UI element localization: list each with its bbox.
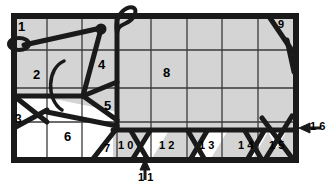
label-ref-2: 2 bbox=[33, 68, 40, 81]
label-ref-9: 9 bbox=[278, 19, 284, 30]
label-ref-10: 1 0 bbox=[118, 140, 133, 151]
label-ref-7: 7 bbox=[104, 143, 110, 154]
label-ref-14: 1 4 bbox=[238, 140, 253, 151]
label-ref-16: 1 6 bbox=[310, 121, 325, 132]
label-ref-5: 5 bbox=[104, 99, 111, 112]
label-ref-12: 1 2 bbox=[159, 140, 174, 151]
label-ref-4: 4 bbox=[98, 58, 105, 71]
leader-16-head bbox=[299, 123, 310, 133]
label-ref-6: 6 bbox=[64, 130, 71, 143]
label-ref-15: 1 5 bbox=[269, 140, 284, 151]
label-ref-13: 1 3 bbox=[199, 140, 214, 151]
dot-marker-icon bbox=[96, 24, 107, 35]
label-ref-1: 1 bbox=[18, 20, 25, 33]
label-ref-8: 8 bbox=[163, 66, 170, 79]
figure-canvas: 1 2 3 4 5 6 7 8 9 1 0 1 1 1 2 1 3 1 4 1 … bbox=[0, 0, 331, 189]
label-ref-11: 1 1 bbox=[138, 172, 153, 183]
label-ref-3: 3 bbox=[15, 113, 22, 125]
